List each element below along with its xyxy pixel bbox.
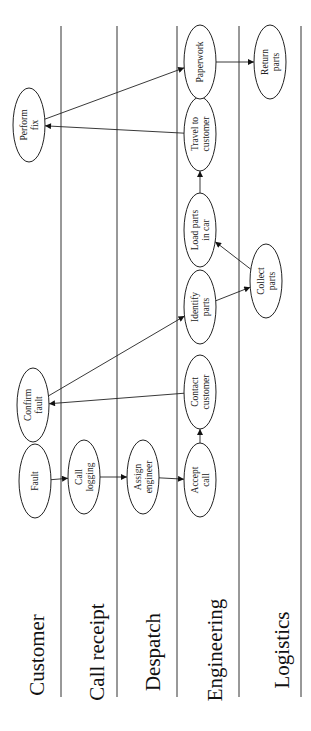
arrow-collect_parts-to-load_parts xyxy=(215,242,251,270)
node-label: Fault xyxy=(30,471,40,491)
arrow-assign_engineer-to-accept_call xyxy=(159,478,184,479)
arrow-travel_to_customer-to-perform_fix xyxy=(45,126,184,133)
node-label: Load parts xyxy=(190,210,200,251)
node-label: parts xyxy=(271,52,281,71)
lane-labels: CustomerCall receiptDespatchEngineeringL… xyxy=(25,598,294,701)
node-label: Confirm xyxy=(23,388,33,421)
node-label: parts xyxy=(267,271,277,290)
process-nodes: FaultCallloggingAssignengineerAcceptcall… xyxy=(13,25,286,518)
node-label: customer xyxy=(201,116,211,152)
node-accept-call: Acceptcall xyxy=(184,443,216,517)
node-label: Perform xyxy=(19,109,29,141)
node-travel-to-customer: Travel tocustomer xyxy=(184,97,216,171)
lane-label-engineering: Engineering xyxy=(203,598,227,701)
node-label: Identify xyxy=(190,292,200,322)
arrow-identify_parts-to-collect_parts xyxy=(216,287,250,301)
node-label: Accept xyxy=(190,466,200,493)
node-label: Contact xyxy=(190,377,200,407)
node-paperwork: Paperwork xyxy=(184,25,216,99)
node-assign-engineer: Assignengineer xyxy=(127,440,159,514)
node-perform-fix: Performfix xyxy=(13,88,45,162)
node-identify-parts: Identifyparts xyxy=(184,270,216,344)
node-label: Assign xyxy=(133,464,143,491)
lane-dividers xyxy=(61,26,301,697)
node-label: fault xyxy=(34,396,44,414)
swimlane-diagram: CustomerCall receiptDespatchEngineeringL… xyxy=(0,0,311,731)
lane-label-call_receipt: Call receipt xyxy=(85,603,109,701)
arrow-fault-to-call_logging xyxy=(51,478,68,479)
node-load-parts: Load partsin car xyxy=(184,193,216,267)
node-label: parts xyxy=(201,297,211,316)
node-fault: Fault xyxy=(19,444,51,518)
lane-label-despatch: Despatch xyxy=(141,612,165,691)
arrow-perform_fix-to-paperwork xyxy=(45,68,184,119)
node-label: Collect xyxy=(256,267,266,295)
node-label: in car xyxy=(201,218,211,240)
node-label: call xyxy=(201,473,211,487)
flow-arrows xyxy=(45,62,254,480)
node-label: engineer xyxy=(144,460,154,494)
node-label: Return xyxy=(260,49,270,75)
lane-label-logistics: Logistics xyxy=(270,612,294,689)
node-call-logging: Calllogging xyxy=(68,440,100,514)
node-label: Paperwork xyxy=(195,41,205,82)
node-label: Travel to xyxy=(190,117,200,151)
lane-label-customer: Customer xyxy=(25,614,49,696)
node-label: Call xyxy=(74,469,84,485)
node-label: logging xyxy=(85,462,95,491)
node-contact-customer: Contactcustomer xyxy=(184,355,216,429)
node-confirm-fault: Confirmfault xyxy=(17,368,49,442)
node-label: fix xyxy=(30,119,40,130)
node-label: customer xyxy=(201,374,211,410)
node-return-parts: Returnparts xyxy=(254,25,286,99)
node-collect-parts: Collectparts xyxy=(250,244,282,318)
